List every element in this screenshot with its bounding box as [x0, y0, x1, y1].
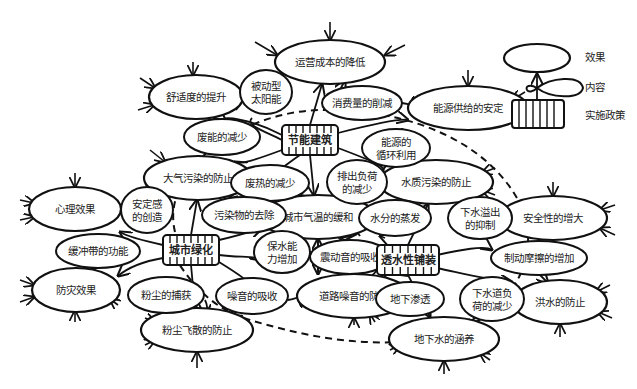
- content-label: 水分的蒸发: [370, 212, 421, 224]
- content-node-c_recycle: 能源的循环利用: [362, 129, 430, 167]
- effect-label: 地下水的涵养: [414, 333, 475, 345]
- effect-node-e_flood: 洪水的防止: [513, 280, 607, 324]
- effect-relationship-diagram: 运营成本的降低舒适度的提升能源供给的安定大气污染的防止水质污染的防止心理效果城市…: [0, 0, 637, 389]
- policy-node-p_permeable: 透水性铺装: [377, 245, 439, 275]
- policy-node-p_green: 城市绿化: [163, 235, 219, 265]
- effect-node-e_ground: 地下水的涵养: [389, 317, 499, 361]
- effect-label: 心理效果: [55, 203, 96, 215]
- effect-label: 能源供给的安定: [433, 102, 504, 114]
- content-node-c_wasteheat: 废热的减少: [231, 165, 309, 201]
- content-node-c_retain: 保水能力增加: [254, 231, 310, 273]
- policy-label: 城市绿化: [169, 243, 213, 257]
- policy-node-p_energy: 节能建筑: [282, 125, 338, 155]
- content-node-c_solar: 被动型太阳能: [240, 70, 292, 114]
- content-label: 荷的减少: [472, 300, 512, 312]
- content-node-c_buffer: 缓冲带的功能: [56, 234, 140, 268]
- effect-label: 舒适度的提升: [166, 91, 226, 103]
- content-label: 地下渗透: [390, 293, 431, 305]
- effect-node-e_safety: 安全性的增大: [499, 196, 607, 240]
- legend-policy-label: 实施政策: [585, 109, 626, 121]
- effect-label: 水质污染的防止: [401, 176, 471, 188]
- content-node-c_overflow: 下水溢出的抑制: [448, 197, 512, 239]
- content-node-c_evap: 水分的蒸发: [359, 200, 431, 236]
- content-label: 的创造: [132, 211, 163, 223]
- content-label: 的减少: [342, 183, 372, 195]
- content-node-c_noiseabs: 噪音的吸收: [216, 278, 288, 314]
- content-label: 力增加: [267, 253, 297, 265]
- content-label: 安定感: [132, 198, 163, 210]
- legend-effect-ellipse: [504, 44, 570, 72]
- effect-node-e_disaster: 防灾效果: [32, 268, 120, 312]
- content-label: 太阳能: [251, 93, 282, 105]
- content-node-c_wasteenergy: 废能的减少: [184, 119, 260, 155]
- effects-layer: 运营成本的降低舒适度的提升能源供给的安定大气污染的防止水质污染的防止心理效果城市…: [29, 40, 607, 361]
- content-node-c_secure: 安定感的创造: [121, 187, 173, 233]
- content-label: 制动摩擦的增加: [504, 252, 574, 264]
- content-label: 噪音的吸收: [227, 290, 278, 302]
- content-label: 能源的: [381, 136, 411, 148]
- content-node-c_sewer: 下水道负荷的减少: [460, 277, 524, 321]
- effect-label: 安全性的增大: [523, 212, 584, 224]
- policy-label: 透水性铺装: [381, 253, 436, 267]
- effect-node-e_cost: 运营成本的降低: [275, 40, 385, 84]
- effect-label: 城市气温的缓和: [283, 211, 353, 223]
- effect-label: 防灾效果: [56, 284, 97, 296]
- content-label: 被动型: [251, 80, 281, 92]
- legend-effect-label: 效果: [585, 51, 606, 63]
- legend-content-label: 内容: [585, 81, 606, 93]
- legend: 效果 内容 实施政策: [504, 44, 626, 128]
- content-label: 保水能: [267, 240, 298, 252]
- content-node-c_discharge: 排出负荷的减少: [327, 160, 387, 204]
- content-label: 排出负荷: [337, 170, 377, 182]
- content-label: 下水道负: [472, 287, 512, 299]
- content-node-c_pollutant: 污染物的去除: [202, 197, 286, 233]
- content-label: 的抑制: [465, 219, 495, 231]
- effect-label: 运营成本的降低: [295, 56, 366, 68]
- effect-node-e_psych: 心理效果: [29, 187, 121, 231]
- content-label: 下水溢出: [460, 206, 500, 218]
- legend-policy-box: [512, 100, 564, 128]
- policy-label: 节能建筑: [288, 133, 332, 147]
- content-node-c_brake: 制动摩擦的增加: [491, 241, 587, 275]
- content-label: 震动音的吸收: [320, 251, 381, 263]
- content-node-c_dustcatch: 粉尘的捕获: [128, 277, 204, 313]
- effect-node-e_supply: 能源供给的安定: [408, 86, 528, 130]
- content-label: 循环利用: [376, 149, 416, 161]
- content-label: 消费量的削减: [332, 97, 393, 109]
- content-label: 粉尘的捕获: [141, 289, 191, 301]
- content-label: 缓冲带的功能: [68, 245, 129, 257]
- effect-label: 粉尘飞散的防止: [162, 324, 232, 336]
- effect-label: 洪水的防止: [535, 296, 585, 308]
- content-label: 污染物的去除: [214, 209, 275, 221]
- content-label: 废能的减少: [197, 131, 247, 143]
- content-label: 废热的减少: [245, 177, 295, 189]
- legend-content-loop: [527, 79, 583, 96]
- content-node-c_consume: 消费量的削减: [322, 86, 402, 120]
- effect-node-e_comfort: 舒适度的提升: [149, 75, 243, 119]
- effect-label: 大气污染的防止: [163, 172, 233, 184]
- content-node-c_infiltrate: 地下渗透: [376, 282, 444, 316]
- effect-node-e_dust: 粉尘飞散的防止: [141, 308, 253, 352]
